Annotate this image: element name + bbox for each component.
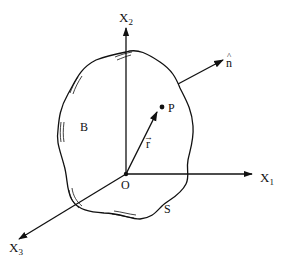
- surface-label: S: [164, 202, 171, 216]
- origin-label: O: [121, 178, 130, 192]
- svg-text:→: →: [144, 132, 153, 142]
- x2-axis-label: X2: [119, 10, 133, 27]
- x1-axis-label: X1: [260, 170, 274, 187]
- body-label: B: [80, 120, 88, 134]
- point-p-label: P: [168, 101, 175, 115]
- position-vector-label: r →: [144, 132, 153, 151]
- origin-point: [124, 172, 128, 176]
- normal-vector-n: [178, 60, 223, 84]
- normal-vector-label: n ^: [226, 51, 232, 70]
- x3-axis-label: X3: [9, 240, 23, 257]
- body-coordinate-diagram: X2 X1 X3 O B S P r → n ^: [0, 0, 282, 260]
- x3-axis: [19, 174, 126, 239]
- position-vector-r: [126, 112, 157, 174]
- body-boundary-surface: [57, 51, 193, 219]
- point-p-marker: [160, 105, 165, 110]
